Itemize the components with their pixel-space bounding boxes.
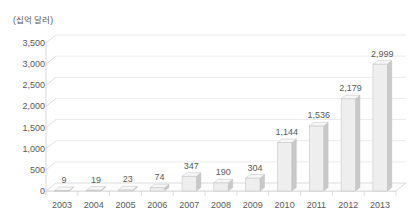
- bar-value-label-2006: 74: [155, 172, 165, 182]
- bar-value-label-2009: 304: [248, 163, 263, 173]
- bar-value-label-2013: 2,999: [371, 49, 394, 59]
- bar-value-label-2008: 190: [216, 167, 231, 177]
- bar-value-labels: 91923743471903041,1441,5362,1792,999: [0, 0, 411, 224]
- bar-value-label-2012: 2,179: [339, 83, 362, 93]
- bar-value-label-2004: 19: [91, 175, 101, 185]
- bar-value-label-2005: 23: [123, 174, 133, 184]
- bar-value-label-2010: 1,144: [276, 127, 299, 137]
- bar-value-label-2003: 9: [62, 175, 67, 185]
- bar-value-label-2007: 347: [184, 161, 199, 171]
- bar-chart: (십억 달러) 0 500 1,000 1,500 2,000 2,500 3,…: [0, 0, 411, 224]
- bar-value-label-2011: 1,536: [307, 110, 330, 120]
